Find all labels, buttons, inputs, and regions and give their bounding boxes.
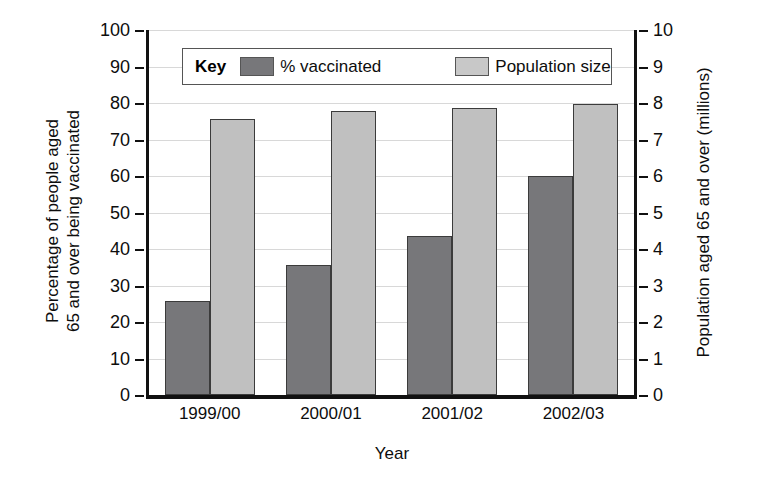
left-axis-tick-label: 30 (90, 277, 130, 295)
left-axis-tick-label: 70 (90, 131, 130, 149)
right-axis-tick (639, 359, 648, 361)
left-axis-tick (135, 140, 144, 142)
left-axis-tick-label: 10 (90, 350, 130, 368)
right-axis-tick (639, 322, 648, 324)
plot-area: 0102030405060708090100 012345678910 (146, 30, 637, 399)
left-axis-tick-label: 50 (90, 204, 130, 222)
legend-swatch-population-icon (455, 57, 489, 76)
left-axis-tick (135, 249, 144, 251)
legend-title: Key (195, 57, 226, 77)
right-axis-tick-label: 5 (653, 204, 693, 222)
right-axis-tick (639, 140, 648, 142)
right-axis-tick (639, 67, 648, 69)
bar (573, 104, 618, 395)
x-axis-tick-label: 2001/02 (397, 404, 507, 424)
y-axis-right-title: Population aged 65 and over (millions) (693, 43, 714, 383)
legend-entry-population: Population size (455, 57, 610, 77)
right-axis-tick (639, 249, 648, 251)
bar (528, 176, 573, 395)
legend-swatch-vaccinated-icon (240, 57, 274, 76)
left-axis-tick-label: 100 (90, 21, 130, 39)
bar (210, 119, 255, 395)
x-axis-title: Year (146, 443, 638, 464)
x-axis-line (146, 395, 637, 399)
x-axis-tick-label: 2002/03 (518, 404, 628, 424)
x-axis-tick-label: 1999/00 (155, 404, 265, 424)
bar (331, 111, 376, 395)
right-axis-tick-label: 8 (653, 94, 693, 112)
right-axis-tick-label: 10 (653, 21, 693, 39)
left-axis-tick-label: 90 (90, 58, 130, 76)
left-axis-tick (135, 286, 144, 288)
left-axis-tick (135, 30, 144, 32)
left-axis-tick (135, 103, 144, 105)
chart-legend: Key % vaccinated Population size (182, 48, 612, 85)
right-axis-tick-label: 2 (653, 313, 693, 331)
right-axis-tick (639, 213, 648, 215)
right-axis-tick-label: 6 (653, 167, 693, 185)
left-axis-tick-label: 80 (90, 94, 130, 112)
left-axis-tick (135, 176, 144, 178)
right-axis-tick (639, 286, 648, 288)
right-axis-tick (639, 103, 648, 105)
bar (407, 236, 452, 395)
left-axis-tick (135, 322, 144, 324)
legend-label-vaccinated: % vaccinated (280, 57, 381, 77)
bar (286, 265, 331, 395)
bar (452, 108, 497, 395)
legend-entry-vaccinated: % vaccinated (240, 57, 381, 77)
left-axis-tick (135, 359, 144, 361)
left-axis-tick (135, 213, 144, 215)
bar (165, 301, 210, 395)
right-axis-tick-label: 9 (653, 58, 693, 76)
left-axis-tick (135, 67, 144, 69)
right-axis-tick-label: 1 (653, 350, 693, 368)
legend-label-population: Population size (495, 57, 610, 77)
right-axis-tick-label: 7 (653, 131, 693, 149)
right-axis-line (634, 30, 637, 399)
right-axis-tick-label: 3 (653, 277, 693, 295)
y-axis-left-title-line1: Percentage of people aged (43, 119, 62, 323)
left-axis-tick-label: 60 (90, 167, 130, 185)
right-axis-tick-label: 4 (653, 240, 693, 258)
right-axis-tick (639, 395, 648, 397)
right-axis-tick (639, 30, 648, 32)
x-axis-tick-label: 2000/01 (276, 404, 386, 424)
bar-chart: Percentage of people aged65 and over bei… (0, 0, 759, 477)
left-axis-tick (135, 395, 144, 397)
y-axis-left-title: Percentage of people aged65 and over bei… (42, 61, 84, 381)
left-axis-tick-label: 20 (90, 313, 130, 331)
right-axis-tick-label: 0 (653, 386, 693, 404)
y-axis-left-title-line2: 65 and over being vaccinated (64, 110, 83, 332)
left-axis-tick-label: 0 (90, 386, 130, 404)
right-axis-tick (639, 176, 648, 178)
left-axis-tick-label: 40 (90, 240, 130, 258)
